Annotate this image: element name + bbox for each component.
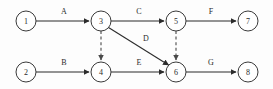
node-1[interactable]: 1 <box>16 11 36 31</box>
network-diagram: A B C D E F G 1 2 3 4 <box>0 0 273 89</box>
node-8[interactable]: 8 <box>238 62 258 82</box>
diagram-canvas: A B C D E F G 1 2 3 4 <box>0 0 273 89</box>
node-6-label: 6 <box>174 68 178 77</box>
edge-label-d: D <box>143 34 149 43</box>
node-2-label: 2 <box>24 68 28 77</box>
node-2[interactable]: 2 <box>16 62 36 82</box>
node-3[interactable]: 3 <box>91 11 111 31</box>
node-3-label: 3 <box>99 17 103 26</box>
node-1-label: 1 <box>24 17 28 26</box>
node-4[interactable]: 4 <box>91 62 111 82</box>
edge-label-g: G <box>208 58 214 67</box>
node-6[interactable]: 6 <box>166 62 186 82</box>
edge-label-a: A <box>61 7 67 16</box>
node-7-label: 7 <box>246 17 250 26</box>
node-7[interactable]: 7 <box>238 11 258 31</box>
node-4-label: 4 <box>99 68 103 77</box>
node-5[interactable]: 5 <box>166 11 186 31</box>
edge-label-b: B <box>61 58 66 67</box>
edge-label-f: F <box>209 7 214 16</box>
edge-label-c: C <box>136 7 141 16</box>
node-8-label: 8 <box>246 68 250 77</box>
node-5-label: 5 <box>174 17 178 26</box>
edge-labels-layer: A B C D E F G <box>61 7 214 67</box>
edge-label-e: E <box>137 58 142 67</box>
nodes-layer: 1 2 3 4 5 6 7 <box>16 11 258 82</box>
